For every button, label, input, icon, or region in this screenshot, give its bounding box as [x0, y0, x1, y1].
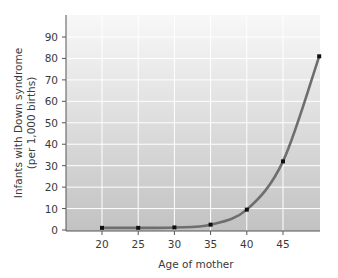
y-axis-title-line2: (per 1,000 births) [25, 77, 37, 170]
y-tick-label: 10 [45, 203, 58, 215]
x-tick-label: 40 [240, 238, 253, 250]
data-point [100, 226, 104, 230]
x-tick-label: 20 [95, 238, 108, 250]
data-point [172, 225, 176, 229]
x-tick-label: 35 [204, 238, 217, 250]
y-tick-label: 0 [51, 224, 58, 236]
y-tick-label: 30 [45, 160, 58, 172]
data-point [281, 159, 285, 163]
y-tick-label: 90 [45, 31, 58, 43]
y-tick-label: 40 [45, 138, 58, 150]
chart: 0102030405060708090202530354045 Age of m… [0, 0, 338, 278]
y-tick-label: 20 [45, 181, 58, 193]
x-tick-label: 30 [168, 238, 181, 250]
data-point [245, 208, 249, 212]
x-axis-title: Age of mother [158, 258, 234, 270]
y-tick-label: 50 [45, 117, 58, 129]
data-point [209, 223, 213, 227]
y-axis-title-line1: Infants with Down syndrome [12, 48, 24, 198]
y-tick-label: 60 [45, 95, 58, 107]
y-tick-label: 80 [45, 52, 58, 64]
data-point [317, 54, 321, 58]
x-tick-label: 25 [132, 238, 145, 250]
data-point [136, 226, 140, 230]
x-tick-label: 45 [276, 238, 289, 250]
y-tick-label: 70 [45, 74, 58, 86]
y-axis-title: Infants with Down syndrome (per 1,000 bi… [12, 48, 37, 198]
